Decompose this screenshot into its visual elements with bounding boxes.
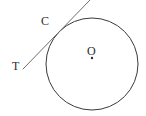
tangent-line [23, 0, 90, 69]
point-label-t: T [12, 60, 19, 72]
point-label-c: C [41, 15, 49, 27]
point-label-o: O [87, 45, 96, 57]
geometry-figure: C T O [0, 0, 146, 116]
geometry-canvas [0, 0, 146, 116]
